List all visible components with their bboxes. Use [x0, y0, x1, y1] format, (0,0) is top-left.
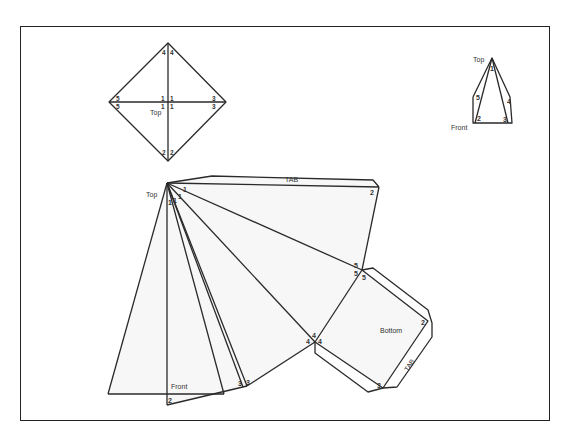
top-view-label-2a: 2	[162, 149, 166, 156]
isometric-top-label: Top	[473, 56, 484, 64]
pyramid-net: Top 1 1 1 1 TAB 2 5 5 5 4 4 4 Bottom 2 3…	[108, 176, 432, 405]
vertex-5c: 5	[362, 274, 366, 281]
apex-number-1c: 1	[178, 193, 182, 200]
vertex-3a: 3	[238, 380, 242, 387]
front-face-label: Front	[171, 383, 187, 390]
vertex-2-right: 2	[370, 189, 374, 196]
isometric-vertex-3: 3	[503, 116, 507, 123]
top-view-label-1c: 1	[161, 103, 165, 110]
top-view-label-1a: 1	[161, 95, 165, 102]
pyramid-net-diagram: 4 4 5 5 3 3 2 2 1 1 1 1 Top Top 1 5 4 2 …	[0, 0, 569, 442]
top-view: 4 4 5 5 3 3 2 2 1 1 1 1 Top	[109, 43, 226, 161]
bottom-face-label: Bottom	[380, 327, 402, 334]
top-view-label-1d: 1	[170, 103, 174, 110]
bottom-vertex-3: 3	[377, 382, 381, 389]
vertex-2-front: 2	[168, 397, 172, 404]
bottom-tab-label: TAB	[403, 357, 416, 372]
net-apex-label: Top	[146, 191, 157, 199]
isometric-view: Top 1 5 4 2 3 Front	[451, 56, 512, 131]
vertex-3b: 3	[246, 379, 250, 386]
top-view-label: Top	[150, 109, 161, 117]
vertex-4a: 4	[312, 332, 316, 339]
pyramid-edge-front-right	[492, 58, 508, 123]
apex-number-1b: 1	[173, 197, 177, 204]
isometric-vertex-1: 1	[490, 65, 494, 72]
vertex-4c: 4	[318, 338, 322, 345]
top-view-label-5b: 5	[116, 103, 120, 110]
isometric-vertex-4: 4	[507, 98, 511, 105]
top-view-label-4a: 4	[162, 49, 166, 56]
top-view-label-3a: 3	[212, 95, 216, 102]
top-view-label-5a: 5	[116, 95, 120, 102]
isometric-vertex-5: 5	[476, 94, 480, 101]
bottom-vertex-2: 2	[421, 319, 425, 326]
top-view-label-3b: 3	[212, 103, 216, 110]
vertex-5b: 5	[354, 270, 358, 277]
top-view-label-1b: 1	[170, 95, 174, 102]
isometric-vertex-2: 2	[477, 115, 481, 122]
top-view-label-2b: 2	[170, 149, 174, 156]
apex-number-1a: 1	[168, 199, 172, 206]
top-view-label-4b: 4	[170, 49, 174, 56]
isometric-front-label: Front	[451, 124, 467, 131]
top-tab-label: TAB	[285, 176, 298, 183]
vertex-4b: 4	[306, 338, 310, 345]
apex-number-1d: 1	[183, 186, 187, 193]
vertex-5a: 5	[354, 262, 358, 269]
